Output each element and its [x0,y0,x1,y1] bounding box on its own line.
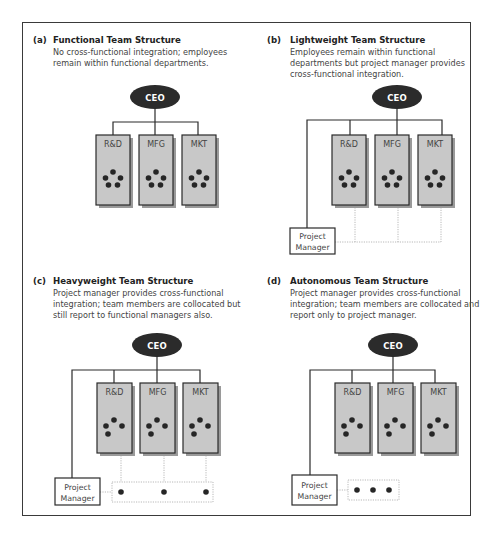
department-mkt: MKT [418,135,455,208]
project-manager-node: Project Manager [290,228,335,254]
team-member-dot [203,489,209,495]
department-mfg: MFG [140,383,178,456]
project-manager-node: Project Manager [55,478,100,505]
collocated-team [354,487,392,493]
panel-c-diagram: CEO R&D MFG MKT Project Manager [55,333,221,505]
project-manager-label: Project [301,481,328,490]
department-rd: R&D [332,135,369,208]
team-member-dot [354,487,360,493]
org-diagrams: CEO R&D MFG MKT CEO R&D [0,0,491,535]
department-label: R&D [104,140,122,149]
integration-links [335,205,441,242]
department-label: MKT [192,388,209,397]
department-label: MFG [387,388,405,397]
department-mfg: MFG [139,135,176,208]
department-label: MKT [430,388,447,397]
project-manager-label: Manager [60,494,95,503]
integration-links [100,453,213,502]
project-manager-label: Project [299,232,326,241]
department-mkt: MKT [421,383,459,456]
team-member-dot [386,487,392,493]
department-label: MKT [191,140,208,149]
ceo-label: CEO [387,93,406,103]
department-mfg: MFG [375,135,412,208]
department-label: R&D [106,388,124,397]
department-rd: R&D [97,383,135,456]
department-mkt: MKT [183,383,221,456]
collocated-team [118,489,209,495]
department-label: MKT [427,140,444,149]
project-manager-label: Project [64,483,91,492]
ceo-label: CEO [147,341,166,351]
project-manager-label: Manager [297,492,332,501]
department-mkt: MKT [182,135,219,208]
team-member-dot [370,487,376,493]
panel-d-diagram: CEO R&D MFG MKT Project Manager [292,333,459,505]
panel-a-diagram: CEO R&D MFG MKT [96,85,219,208]
team-member-dot [118,489,124,495]
department-rd: R&D [96,135,133,208]
department-label: R&D [340,140,358,149]
department-label: MFG [383,140,401,149]
department-rd: R&D [335,383,373,456]
ceo-label: CEO [145,93,164,103]
panel-b-diagram: CEO R&D MFG MKT Project Manager [290,85,455,254]
project-manager-node: Project Manager [292,475,337,505]
department-label: MFG [149,388,167,397]
ceo-label: CEO [383,341,402,351]
department-label: R&D [344,388,362,397]
department-mfg: MFG [378,383,416,456]
team-member-dot [161,489,167,495]
project-manager-label: Manager [295,243,330,252]
department-connector [72,370,200,478]
department-label: MFG [147,140,165,149]
